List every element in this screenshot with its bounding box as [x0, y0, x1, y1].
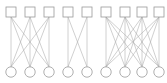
graph-node-circle	[154, 67, 164, 77]
graph-node-square	[6, 7, 16, 17]
graph-node-square	[101, 7, 111, 17]
graph-node-circle	[6, 67, 16, 77]
graph-node-square	[120, 7, 130, 17]
graph-node-circle	[101, 67, 111, 77]
figure-root	[0, 0, 167, 83]
graph-node-square	[137, 7, 147, 17]
graph-node-circle	[120, 67, 130, 77]
graph-node-circle	[25, 67, 35, 77]
bipartite-graph-canvas	[0, 0, 167, 83]
graph-node-square	[44, 7, 54, 17]
graph-node-square	[82, 7, 92, 17]
graph-node-circle	[44, 67, 54, 77]
graph-node-circle	[137, 67, 147, 77]
graph-node-square	[154, 7, 164, 17]
graph-node-square	[25, 7, 35, 17]
graph-node-square	[63, 7, 73, 17]
graph-node-circle	[82, 67, 92, 77]
graph-node-circle	[63, 67, 73, 77]
